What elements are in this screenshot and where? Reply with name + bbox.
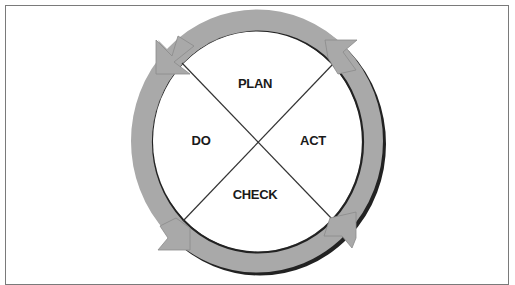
label-act: ACT xyxy=(300,133,326,148)
label-do: DO xyxy=(192,133,211,148)
label-plan: PLAN xyxy=(238,76,272,91)
label-check: CHECK xyxy=(233,187,279,202)
